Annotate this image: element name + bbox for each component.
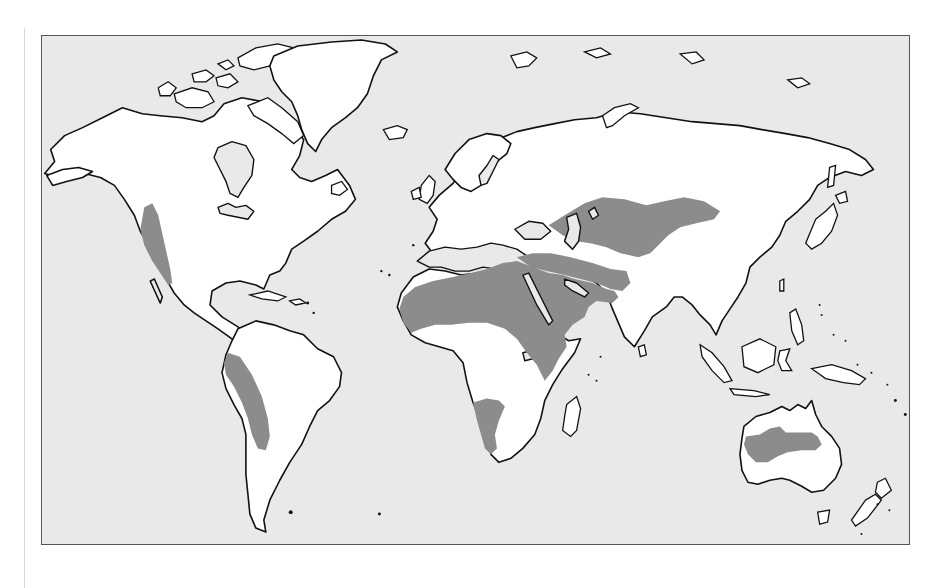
island-java [730, 389, 770, 397]
island-iceland [383, 126, 407, 140]
island-great-britain [419, 175, 435, 203]
island-ireland [411, 187, 421, 199]
page-left-rule [24, 28, 25, 588]
landmass-south-america [222, 321, 342, 532]
island-arctic-1 [192, 70, 214, 82]
island-arctic-3 [218, 60, 234, 70]
island-taiwan [780, 279, 784, 291]
island-sri-lanka [638, 345, 646, 357]
island-madagascar [563, 397, 581, 437]
island-victoria [174, 88, 214, 108]
world-desert-map [41, 35, 910, 545]
island-philippines [790, 309, 804, 345]
island-franz-josef [585, 48, 611, 58]
island-new-siberian [788, 78, 810, 88]
map-canvas [42, 36, 909, 544]
island-arctic-2 [216, 74, 238, 88]
island-banks [158, 82, 176, 96]
island-tasmania [818, 510, 830, 524]
island-severnaya-zemlya [680, 52, 704, 64]
island-new-zealand-south [852, 494, 882, 526]
island-hispaniola [290, 299, 306, 305]
island-svalbard [511, 52, 537, 68]
island-falklands [289, 510, 293, 514]
island-borneo [742, 339, 776, 373]
island-sumatra [700, 345, 732, 383]
island-japan [806, 203, 838, 249]
island-cuba [250, 291, 286, 301]
island-new-zealand-north [875, 478, 891, 498]
gulf-of-california-overlay [150, 279, 162, 303]
island-lesser-antilles [312, 312, 314, 314]
island-hokkaido [836, 191, 848, 203]
island-sulawesi [778, 349, 792, 371]
island-new-guinea [812, 365, 866, 385]
island-puerto-rico [306, 301, 309, 304]
